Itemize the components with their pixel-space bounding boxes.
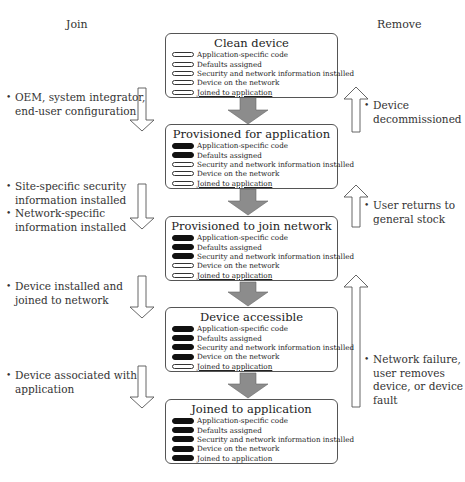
attr-label: Security and network information install… [197,435,354,444]
status-pill-empty [172,181,194,186]
attr-label: Application-specific code [197,233,288,242]
attr-label: Application-specific code [197,324,288,333]
annotation-item: Site-specific security information insta… [6,180,126,207]
state-box-joined-to-application: Joined to application Application-specif… [165,399,338,464]
annotation-item: Network-specific information installed [6,207,126,234]
join-arrow-2 [130,184,154,229]
remove-annotation-2: User returns to general stock [364,199,455,226]
status-pill-filled [172,335,194,341]
attr-label: Device on the network [197,444,279,453]
attr-label: Defaults assigned [197,334,262,343]
annotation-item: OEM, system integrator, end-user configu… [6,91,145,118]
status-pill-filled [172,436,194,442]
attr-label: Joined to application [197,88,272,97]
status-pill-filled [172,152,194,158]
attr-label: Joined to application [197,454,272,463]
annotation-item: Device installed and joined to network [6,280,123,307]
flow-arrow-2 [228,189,268,215]
attr-label: Device on the network [197,78,279,87]
remove-annotation-3: Network failure, user removes device, or… [364,353,463,407]
status-pill-empty [172,90,194,95]
attr-label: Application-specific code [197,50,288,59]
state-box-clean-device: Clean device Application-specific code D… [165,33,338,98]
attr-label: Joined to application [197,271,272,280]
flow-arrow-3 [228,282,268,306]
join-annotation-3: Device installed and joined to network [6,280,123,307]
status-pill-filled [172,354,194,360]
status-pill-empty [172,62,194,67]
status-pill-empty [172,80,194,85]
state-title: Provisioned for application [166,127,337,141]
attr-label: Defaults assigned [197,243,262,252]
status-pill-filled [172,253,194,259]
status-pill-filled [172,455,194,461]
state-title: Provisioned to join network [166,219,337,233]
attr-label: Joined to application [197,362,272,371]
status-pill-empty [172,71,194,76]
join-annotation-1: OEM, system integrator, end-user configu… [6,91,145,118]
flow-arrow-1 [228,97,268,124]
remove-annotation-1: Device decommissioned [364,99,462,126]
join-arrow-3 [130,276,154,318]
status-pill-filled [172,235,194,241]
attr-label: Defaults assigned [197,151,262,160]
attr-label: Application-specific code [197,416,288,425]
attr-label: Device on the network [197,169,279,178]
annotation-item: User returns to general stock [364,199,455,226]
status-pill-filled [172,418,194,424]
status-pill-filled [172,143,194,149]
state-title: Joined to application [166,402,337,416]
attr-label: Joined to application [197,179,272,188]
annotation-item: Network failure, user removes device, or… [364,353,463,407]
attr-label: Security and network information install… [197,343,354,352]
join-annotation-4: Device associated with application [6,369,137,396]
attr-label: Security and network information install… [197,252,354,261]
attr-label: Defaults assigned [197,60,262,69]
annotation-item: Device associated with application [6,369,137,396]
state-box-device-accessible: Device accessible Application-specific c… [165,307,338,372]
attr-label: Security and network information install… [197,69,354,78]
state-box-provisioned-to-join-network: Provisioned to join network Application-… [165,216,338,281]
attr-label: Device on the network [197,261,279,270]
annotation-item: Device decommissioned [364,99,462,126]
status-pill-filled [172,427,194,433]
status-pill-filled [172,344,194,350]
attr-label: Application-specific code [197,141,288,150]
attr-label: Device on the network [197,352,279,361]
status-pill-empty [172,52,194,57]
status-pill-empty [172,171,194,176]
status-pill-empty [172,273,194,278]
status-pill-filled [172,244,194,250]
status-pill-filled [172,326,194,332]
state-title: Clean device [166,36,337,50]
status-pill-empty [172,263,194,268]
flow-arrow-4 [228,373,268,398]
state-box-provisioned-for-application: Provisioned for application Application-… [165,124,338,189]
status-pill-empty [172,364,194,369]
attr-label: Security and network information install… [197,160,354,169]
state-title: Device accessible [166,310,337,324]
join-annotation-2: Site-specific security information insta… [6,180,126,234]
attr-label: Defaults assigned [197,426,262,435]
status-pill-empty [172,162,194,167]
status-pill-filled [172,446,194,452]
